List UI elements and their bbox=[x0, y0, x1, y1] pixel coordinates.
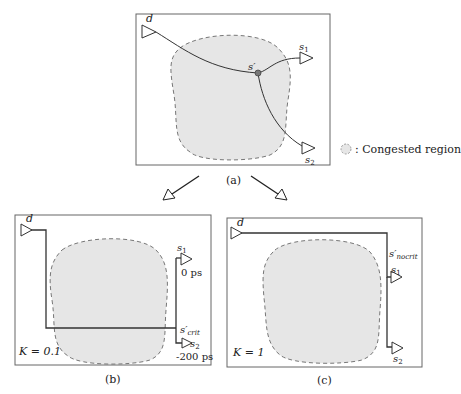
legend-text: : Congested region bbox=[355, 143, 461, 156]
arrow-to-b bbox=[163, 176, 199, 200]
sink2-slack-b: -200 ps bbox=[176, 351, 213, 362]
driver-label-b: d bbox=[26, 212, 33, 225]
routing-diagram: d s1 s2 s′ (a) : Congested region d s1 0… bbox=[0, 0, 461, 394]
steiner-label-a: s′ bbox=[248, 61, 256, 72]
sink2-triangle-icon bbox=[302, 142, 315, 154]
k-value-b: K = 0.1 bbox=[18, 345, 61, 358]
steiner-point bbox=[255, 70, 261, 76]
congested-region-a bbox=[171, 35, 290, 160]
k-value-c: K = 1 bbox=[232, 346, 264, 359]
sink1-slack-b: 0 ps bbox=[181, 267, 202, 278]
steiner-label-c: s′nocrit bbox=[389, 248, 418, 261]
legend: : Congested region bbox=[341, 143, 461, 156]
congested-region-legend-icon bbox=[341, 144, 351, 154]
congested-region-c bbox=[263, 240, 381, 364]
panel-a: d s1 s2 s′ bbox=[136, 12, 330, 167]
caption-a: (a) bbox=[226, 174, 241, 187]
sink1-label-b: s1 bbox=[177, 242, 187, 255]
panel-b: d s1 0 ps s′crit s2 -200 ps K = 0.1 bbox=[15, 212, 213, 365]
wire-trunk-c bbox=[387, 277, 392, 347]
panel-c: d s′nocrit s1 s2 K = 1 bbox=[227, 216, 422, 367]
driver-label-c: d bbox=[237, 216, 244, 229]
congested-region-b bbox=[50, 239, 167, 364]
driver-label-a: d bbox=[146, 12, 153, 25]
sink2-label-b: s2 bbox=[190, 338, 200, 351]
arrow-to-c bbox=[251, 176, 287, 200]
driver-triangle-icon bbox=[21, 224, 32, 236]
driver-triangle-icon bbox=[142, 25, 156, 38]
sink2-label-c: s2 bbox=[393, 353, 403, 366]
caption-b: (b) bbox=[105, 373, 121, 386]
caption-c: (c) bbox=[317, 374, 332, 387]
steiner-label-b: s′crit bbox=[180, 324, 200, 337]
